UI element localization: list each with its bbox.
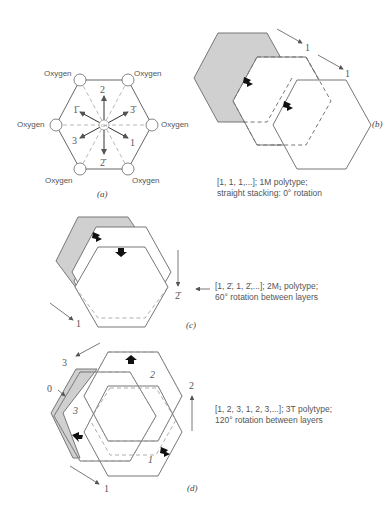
direction-label: 3̄ — [130, 104, 137, 115]
polytype-diagram: OH Oxygen Oxygen Oxygen Oxygen Oxygen Ox… — [0, 0, 389, 510]
direction-label: 2 — [100, 84, 105, 95]
oxygen-label: Oxygen — [134, 69, 162, 78]
direction-label: 1 — [104, 483, 109, 494]
stacking-arrow — [160, 447, 170, 457]
caption-line: 60° rotation between layers — [215, 292, 318, 303]
direction-label: 2 — [189, 380, 194, 391]
layer-label: 1 — [148, 454, 153, 465]
direction-label: 0 — [47, 383, 52, 394]
oxygen-label: Oxygen — [132, 176, 160, 185]
oxygen-label: Oxygen — [17, 120, 45, 129]
caption-line: [1, 2̄, 1, 2̄,...]; 2M₁ polytype; — [215, 281, 318, 292]
caption-line: [1, 1, 1,...]; 1M polytype; — [217, 177, 322, 188]
panel-label: (d) — [187, 483, 198, 493]
panel-d: 3 0 2 1 2 3 1 (d) — [47, 343, 198, 494]
direction-label: 1 — [130, 137, 135, 148]
caption-line: straight stacking: 0° rotation — [217, 188, 322, 199]
oxygen-label: Oxygen — [45, 176, 73, 185]
panel-b: 1 1 (b) — [194, 29, 383, 169]
layer-label: 2 — [150, 369, 155, 380]
caption-line: [1, 2, 3, 1, 2, 3,...]; 3T polytype; — [215, 404, 332, 415]
stacking-arrow — [125, 355, 137, 364]
panel-c: 2̄ 1 (c) — [50, 217, 210, 330]
direction-label: 1̄ — [73, 104, 80, 115]
direction-label: 2̄ — [175, 290, 182, 301]
caption-line: 120° rotation between layers — [215, 415, 332, 426]
direction-label: 1 — [305, 42, 310, 53]
layer-label: 3 — [72, 405, 78, 416]
caption-c: [1, 2̄, 1, 2̄,...]; 2M₁ polytype; 60° ro… — [215, 281, 318, 303]
direction-label: 1 — [76, 318, 81, 329]
panel-label: (b) — [372, 119, 383, 129]
oh-label: OH — [101, 123, 107, 128]
panel-label: (a) — [97, 189, 108, 199]
caption-b: [1, 1, 1,...]; 1M polytype; straight sta… — [217, 177, 322, 199]
caption-d: [1, 2, 3, 1, 2, 3,...]; 3T polytype; 120… — [215, 404, 332, 426]
direction-label: 1 — [345, 68, 350, 79]
direction-label: 3 — [62, 357, 67, 368]
panel-label: (c) — [186, 320, 196, 330]
panel-a: OH Oxygen Oxygen Oxygen Oxygen Oxygen Ox… — [17, 69, 189, 199]
oxygen-label: Oxygen — [44, 69, 72, 78]
direction-label: 2̄ — [100, 157, 107, 168]
oxygen-label: Oxygen — [161, 120, 189, 129]
direction-label: 3 — [72, 135, 77, 146]
